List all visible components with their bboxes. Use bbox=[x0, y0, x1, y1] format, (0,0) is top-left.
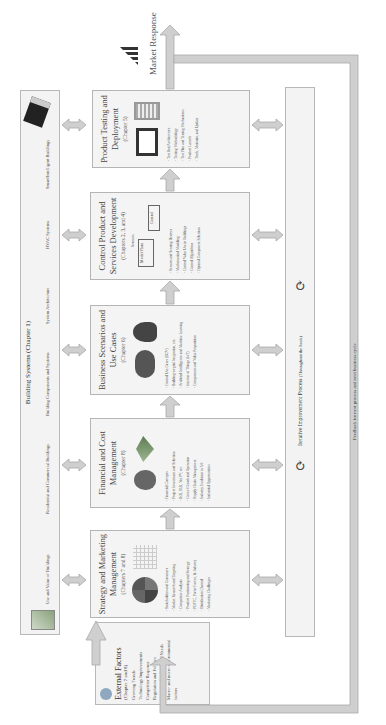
iterative-improvement-panel: ⟳ Iterative Improvement Process (Through… bbox=[285, 87, 315, 637]
feedback-label: Feedback for next process and next busin… bbox=[352, 343, 357, 440]
external-to-strategy-arrow bbox=[86, 621, 106, 665]
feedback-loop-arrow bbox=[150, 55, 358, 713]
double-arrows-top bbox=[62, 119, 86, 586]
iterative-label: Iterative Improvement Process bbox=[297, 378, 303, 446]
iterative-note: (Throughout the book) bbox=[298, 336, 303, 377]
market-response-label: Market Response bbox=[148, 12, 158, 75]
arrow-right-icon bbox=[160, 396, 180, 417]
arrow-right-icon bbox=[160, 509, 180, 529]
refresh-icon: ⟳ bbox=[294, 279, 308, 291]
arrow-right-icon bbox=[160, 169, 180, 191]
double-arrows-bottom bbox=[252, 119, 283, 586]
refresh-icon: ⟳ bbox=[294, 459, 308, 471]
arrow-right-icon bbox=[160, 281, 180, 304]
flow-arrows bbox=[0, 0, 386, 725]
process-diagram: Building Systems (Chapter 1) Use and Val… bbox=[0, 0, 386, 725]
